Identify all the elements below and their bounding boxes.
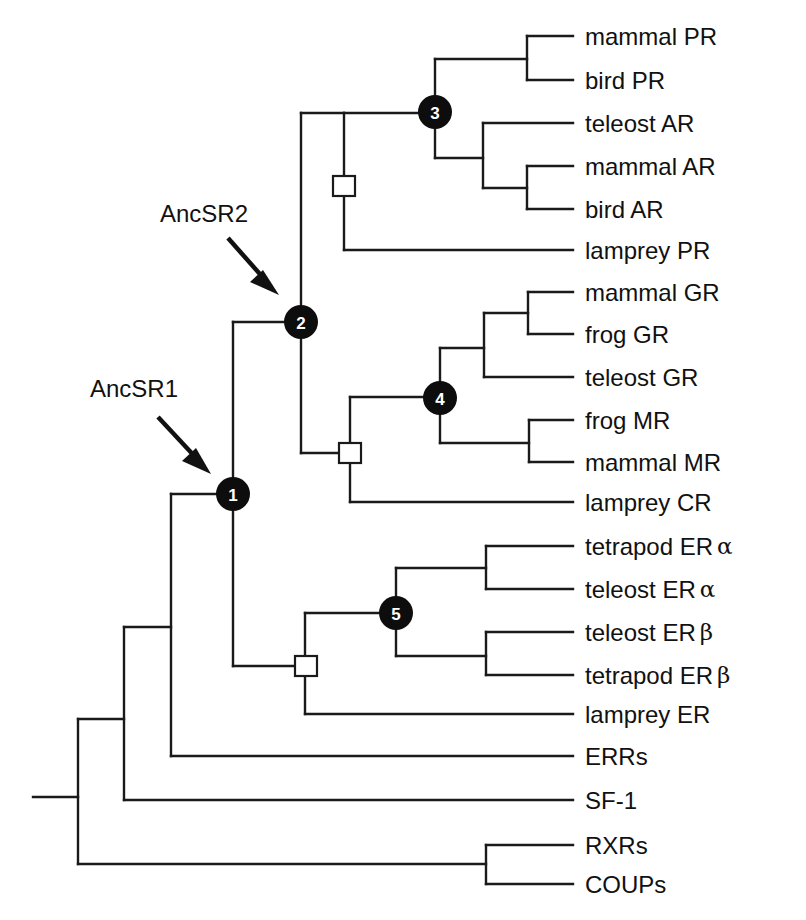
ancestral-node-2: 2 <box>284 305 318 339</box>
leaf-label-bird-ar: bird AR <box>585 196 664 223</box>
leaf-label-bird-pr: bird PR <box>585 67 665 94</box>
leaf-label-mammal-mr: mammal MR <box>585 449 721 476</box>
ancsr1-annotation: AncSR1 <box>90 375 211 474</box>
ancestral-node-1: 1 <box>216 477 250 511</box>
duplication-square-icon <box>295 656 317 676</box>
leaf-label-teleost-ar: teleost AR <box>585 110 694 137</box>
node-number: 1 <box>228 486 237 505</box>
node-number: 2 <box>296 314 305 333</box>
leaf-label-lamprey-er: lamprey ER <box>585 701 710 728</box>
leaf-label-errs: ERRs <box>585 743 648 770</box>
leaf-label-teleost-er-alpha: teleost ERα <box>585 576 715 603</box>
leaf-label-mammal-pr: mammal PR <box>585 23 717 50</box>
leaf-label-frog-gr: frog GR <box>585 321 669 348</box>
ancestral-node-3: 3 <box>418 95 452 129</box>
node-number: 5 <box>391 605 400 624</box>
tree-branches <box>33 36 573 884</box>
ancsr2-label: AncSR2 <box>160 200 248 227</box>
leaf-label-teleost-er-beta: teleost ERβ <box>585 619 713 646</box>
arrow-icon <box>228 238 279 295</box>
leaf-label-mammal-ar: mammal AR <box>585 153 716 180</box>
arrow-icon <box>158 417 211 474</box>
ancsr2-annotation: AncSR2 <box>160 200 279 295</box>
ancestral-node-5: 5 <box>379 596 413 630</box>
node-number: 3 <box>430 104 439 123</box>
leaf-label-tetrapod-er-alpha: tetrapod ERα <box>585 533 733 560</box>
ancsr1-label: AncSR1 <box>90 375 178 402</box>
ancestral-node-4: 4 <box>423 381 457 415</box>
leaf-label-lamprey-cr: lamprey CR <box>585 489 712 516</box>
leaf-label-teleost-gr: teleost GR <box>585 364 698 391</box>
leaf-label-frog-mr: frog MR <box>585 407 670 434</box>
phylogenetic-tree: AncSR2 AncSR1 12345 mammal PRbird PRtele… <box>0 0 806 920</box>
duplication-square-icon <box>333 176 355 196</box>
leaf-labels: mammal PRbird PRteleost ARmammal ARbird … <box>585 23 733 898</box>
leaf-label-tetrapod-er-beta: tetrapod ERβ <box>585 662 730 689</box>
leaf-label-lamprey-pr: lamprey PR <box>585 237 710 264</box>
leaf-label-coups: COUPs <box>585 871 666 898</box>
node-number: 4 <box>435 390 445 409</box>
duplication-square-icon <box>339 443 361 463</box>
leaf-label-rxrs: RXRs <box>585 832 648 859</box>
leaf-label-sf1: SF-1 <box>585 787 637 814</box>
leaf-label-mammal-gr: mammal GR <box>585 279 720 306</box>
